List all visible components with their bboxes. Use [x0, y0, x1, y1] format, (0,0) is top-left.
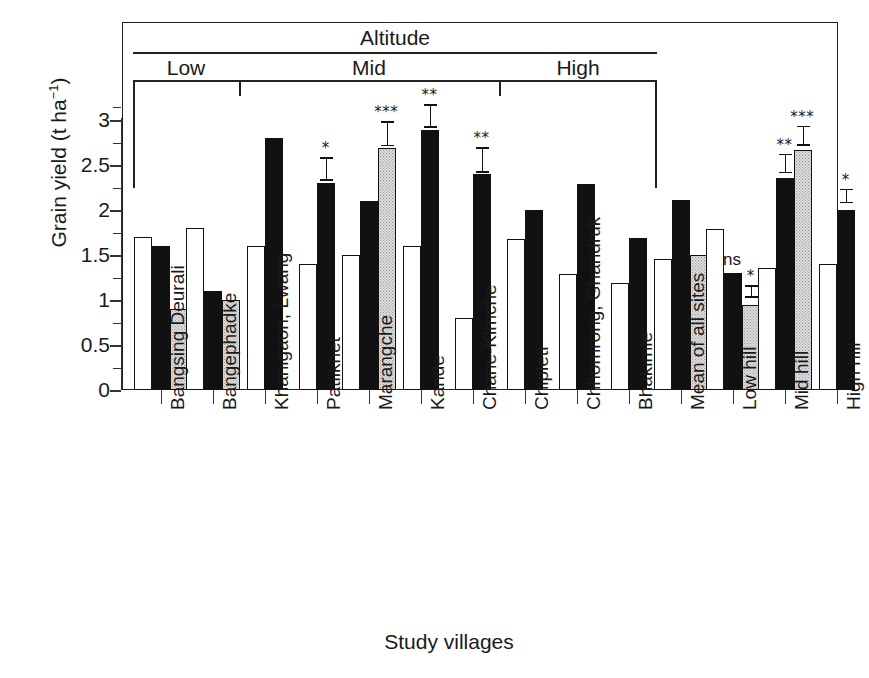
x-tick-mark	[317, 390, 318, 404]
significance-marker: ***	[374, 105, 398, 120]
error-bar-cap-bottom	[476, 171, 489, 173]
x-tick-mark	[265, 390, 266, 404]
significance-marker: *	[842, 173, 850, 188]
error-bar-stem	[785, 154, 786, 174]
x-tick-mark	[213, 390, 214, 404]
error-bar	[476, 147, 489, 172]
x-tick-mark	[369, 390, 370, 404]
y-tick-mark	[110, 255, 121, 257]
error-bar	[745, 285, 758, 298]
x-tick-label: Bangsing Deurali	[168, 265, 187, 410]
error-bar-cap-bottom	[320, 179, 333, 181]
y-tick-mark	[110, 165, 121, 167]
x-tick-mark	[837, 390, 838, 404]
x-tick-mark	[629, 390, 630, 404]
error-bar-cap-bottom	[797, 144, 810, 146]
significance-marker: *	[747, 269, 755, 284]
y-tick-mark-minor	[113, 233, 121, 235]
x-tick-mark	[785, 390, 786, 404]
y-tick-mark	[110, 390, 121, 392]
y-tick-mark	[110, 210, 121, 212]
y-tick-mark-minor	[113, 107, 121, 109]
x-tick-label: Chhomrong, Ghandruk	[584, 217, 603, 410]
bar-white	[247, 246, 265, 390]
x-tick-label: Low hill	[740, 347, 759, 410]
x-tick-mark	[161, 390, 162, 404]
significance-marker: ***	[790, 110, 814, 125]
x-tick-label: Kande	[428, 355, 447, 410]
error-bar-cap-bottom	[745, 296, 758, 298]
bar-white	[758, 268, 776, 390]
bar-white	[819, 264, 837, 390]
x-tick-label: Khanigaon, Lwang	[272, 253, 291, 410]
x-tick-label: Chipleti	[532, 347, 551, 410]
y-tick-mark	[110, 345, 121, 347]
x-tick-label: Bhakimle	[636, 332, 655, 410]
x-tick-mark	[681, 390, 682, 404]
bar-black	[421, 130, 439, 390]
significance-marker: *	[322, 141, 330, 156]
x-tick-label: Mean of all sites	[688, 273, 707, 410]
y-tick-label: 1.5	[64, 244, 110, 265]
y-tick-mark	[110, 300, 121, 302]
bar-white	[403, 246, 421, 390]
error-bar	[320, 157, 333, 180]
y-tick-label: 0	[64, 379, 110, 400]
x-tick-label: Chane-Kimche	[480, 284, 499, 410]
bar-white	[342, 255, 360, 390]
x-tick-label: High hill	[844, 342, 863, 410]
x-tick-label: Mid hill	[792, 351, 811, 410]
x-tick-mark	[473, 390, 474, 404]
bar-white	[186, 228, 204, 390]
y-tick-label: 0.5	[64, 334, 110, 355]
significance-marker: ns	[723, 251, 741, 268]
significance-marker: **	[422, 88, 438, 103]
error-bar-cap-bottom	[381, 145, 394, 147]
x-tick-mark	[525, 390, 526, 404]
y-tick-label: 2.5	[64, 154, 110, 175]
bar-white	[507, 239, 525, 390]
y-tick-mark-minor	[113, 323, 121, 325]
error-bar	[797, 126, 810, 146]
y-axis-tick-labels: 00.511.522.53	[50, 0, 110, 678]
error-bar-cap-bottom	[779, 172, 792, 174]
y-tick-mark	[110, 120, 121, 122]
x-tick-mark	[421, 390, 422, 404]
error-bar	[381, 121, 394, 146]
y-tick-mark-minor	[113, 188, 121, 190]
error-bar-stem	[482, 147, 483, 172]
bar-white	[706, 229, 724, 390]
y-tick-mark-minor	[113, 278, 121, 280]
y-tick-label: 3	[64, 109, 110, 130]
error-bar	[424, 104, 437, 127]
x-tick-mark	[733, 390, 734, 404]
y-tick-mark-minor	[113, 368, 121, 370]
error-bar-stem	[387, 121, 388, 146]
bar-white	[654, 259, 672, 390]
significance-marker: **	[777, 138, 793, 153]
error-bar	[840, 189, 853, 203]
x-tick-label: Patlikhet	[324, 337, 343, 410]
x-tick-label: Marangche	[376, 315, 395, 410]
x-tick-mark	[577, 390, 578, 404]
bar-white	[559, 274, 577, 390]
significance-marker: **	[474, 131, 490, 146]
y-tick-label: 1	[64, 289, 110, 310]
error-bar	[779, 154, 792, 174]
error-bar-cap-bottom	[840, 202, 853, 204]
error-bar-stem	[803, 126, 804, 146]
error-bar-stem	[326, 157, 327, 180]
bar-white	[455, 318, 473, 390]
error-bar-cap-bottom	[424, 126, 437, 128]
bar-white	[299, 264, 317, 390]
bar-white	[611, 283, 629, 390]
x-tick-label: Bangephadke	[220, 293, 239, 410]
x-axis-title: Study villages	[18, 630, 869, 654]
y-tick-mark-minor	[113, 143, 121, 145]
bar-white	[134, 237, 152, 390]
error-bar-stem	[430, 104, 431, 127]
y-tick-label: 2	[64, 199, 110, 220]
